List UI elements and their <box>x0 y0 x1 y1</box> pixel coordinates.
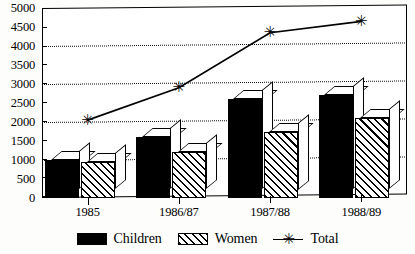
y-tick-label: 4000 <box>11 40 35 52</box>
solid-black-swatch <box>77 233 107 245</box>
legend-label-total: Total <box>310 231 338 247</box>
x-tick-mark <box>88 198 89 205</box>
x-tick-label-1988/89: 1988/89 <box>342 205 382 219</box>
x-tick-mark <box>270 196 271 203</box>
x-tick-label-1986/87: 1986/87 <box>159 205 199 219</box>
y-tick-mark <box>42 46 47 47</box>
total-line-series: ✳✳✳✳ <box>42 8 407 198</box>
y-tick-mark <box>42 177 47 178</box>
legend-item-children: Children <box>77 231 162 247</box>
y-tick-mark <box>42 102 47 103</box>
y-axis: 5000450040003500300025002000150010005000 <box>0 0 40 210</box>
y-tick-label: 1000 <box>11 154 35 166</box>
total-marker-1985: ✳ <box>81 111 94 129</box>
y-tick-label: 2500 <box>11 97 35 109</box>
legend-item-total: ✳ Total <box>273 231 338 247</box>
total-line <box>88 21 362 120</box>
total-markers: ✳✳✳✳ <box>81 12 367 129</box>
hatched-swatch <box>178 233 208 245</box>
total-marker-1988/89: ✳ <box>355 12 368 30</box>
bar-chart: 5000450040003500300025002000150010005000… <box>0 0 415 254</box>
chart-legend: Children Women ✳ Total <box>0 226 415 252</box>
y-tick-label: 3000 <box>11 78 35 90</box>
y-tick-label: 2000 <box>11 116 35 128</box>
y-tick-mark <box>42 121 47 122</box>
y-tick-mark <box>42 83 47 84</box>
total-marker-1987/88: ✳ <box>264 23 277 41</box>
legend-label-children: Children <box>114 231 162 247</box>
asterisk-icon: ✳ <box>282 233 295 245</box>
y-tick-label: 5000 <box>11 2 35 14</box>
y-tick-label: 1500 <box>11 135 35 147</box>
total-marker-1986/87: ✳ <box>173 78 186 96</box>
x-tick-label-1985: 1985 <box>76 205 100 219</box>
legend-label-women: Women <box>215 231 258 247</box>
y-tick-label: 3500 <box>11 59 35 71</box>
x-tick-label-1987/88: 1987/88 <box>250 205 290 219</box>
line-asterisk-swatch: ✳ <box>273 233 303 245</box>
y-tick-mark <box>42 140 47 141</box>
y-tick-mark <box>42 8 47 9</box>
y-tick-label: 500 <box>17 173 35 185</box>
y-tick-mark <box>42 196 47 197</box>
y-tick-mark <box>42 64 47 65</box>
x-tick-mark <box>179 197 180 204</box>
y-tick-mark <box>42 27 47 28</box>
x-tick-mark <box>361 195 362 202</box>
y-tick-mark <box>42 159 47 160</box>
legend-item-women: Women <box>178 231 258 247</box>
y-tick-label: 0 <box>29 192 35 204</box>
y-tick-label: 4500 <box>11 21 35 33</box>
